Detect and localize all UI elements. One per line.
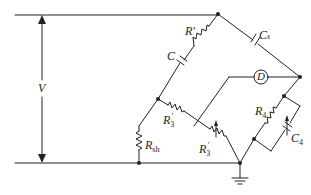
label-r3-variable: R3′	[199, 142, 209, 158]
label-detector: D	[257, 71, 265, 82]
label-c: C	[167, 50, 175, 62]
label-cs: Cs	[259, 29, 270, 41]
label-r3-prime: R3′	[163, 113, 173, 129]
variable-resistor-r3-icon	[210, 126, 226, 136]
label-r-prime: R′	[185, 25, 195, 37]
resistor-r-prime-icon	[193, 25, 209, 46]
variable-capacitor-c4-icon	[285, 122, 292, 127]
arm-cs	[218, 14, 300, 77]
label-c4: C4	[291, 132, 303, 147]
label-r4: R4	[255, 105, 266, 120]
r4-c4-network	[240, 77, 300, 163]
detector-branch	[194, 70, 300, 126]
resistor-r3-prime-icon	[168, 102, 184, 112]
label-rsh: Rsh	[145, 139, 159, 154]
resistor-rsh-icon	[136, 131, 142, 150]
resistor-r4-icon	[265, 107, 276, 123]
circuit-diagram: V R′ C Cs D R3′ R3′ Rsh R4 C4	[0, 0, 311, 195]
label-voltage: V	[37, 82, 46, 94]
capacitor-cs-icon	[251, 34, 256, 42]
ground-icon	[232, 163, 248, 184]
